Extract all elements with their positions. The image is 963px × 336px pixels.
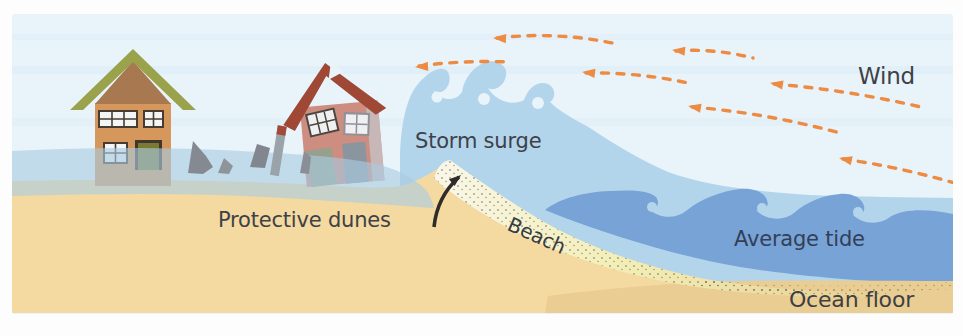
ocean-floor-label: Ocean floor <box>789 289 914 311</box>
protective-dunes-label: Protective dunes <box>218 210 391 231</box>
diagram-canvas <box>12 14 953 314</box>
average-tide-label: Average tide <box>734 229 865 250</box>
house-intact-window-right <box>143 110 164 128</box>
wind-label: Wind <box>858 65 915 88</box>
house-damaged-window-right <box>343 112 370 136</box>
storm-surge-diagram: Storm surge Protective dunes Beach Avera… <box>0 0 963 336</box>
scene-art <box>12 14 953 314</box>
house-intact-window-left <box>98 110 138 128</box>
storm-surge-label: Storm surge <box>415 131 541 152</box>
